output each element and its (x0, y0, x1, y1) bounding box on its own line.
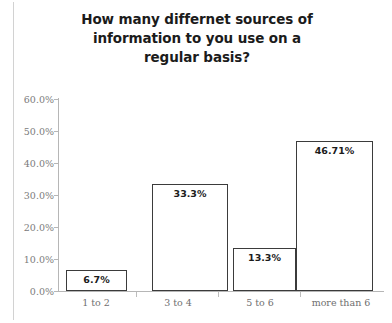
y-tick-label-0: 0.0% (14, 286, 54, 297)
x-tick-mark-1 (136, 292, 137, 297)
x-label-more-than-6: more than 6 (296, 297, 386, 308)
bar-5-to-6[interactable]: 13.3% (233, 248, 296, 291)
y-axis-line (58, 98, 59, 292)
y-tick-label-10: 10.0% (14, 254, 54, 265)
y-tick-label-60: 60.0% (14, 94, 54, 105)
chart-title-line-2: information to you use on a (22, 29, 372, 48)
x-label-5-to-6: 5 to 6 (220, 297, 300, 308)
y-tick-label-20: 20.0% (14, 222, 54, 233)
bar-3-to-4[interactable]: 33.3% (152, 184, 228, 291)
y-tick-mark-60 (54, 99, 58, 100)
x-label-1-to-2: 1 to 2 (56, 297, 136, 308)
chart-container: How many differnet sources of informatio… (0, 0, 392, 323)
y-tick-label-40: 40.0% (14, 158, 54, 169)
chart-title-line-1: How many differnet sources of (22, 10, 372, 29)
bar-value-label-1-to-2: 6.7% (67, 274, 126, 285)
y-tick-label-50: 50.0% (14, 126, 54, 137)
y-tick-label-30: 30.0% (14, 190, 54, 201)
bar-value-label-3-to-4: 33.3% (153, 188, 227, 199)
y-tick-mark-0 (54, 291, 58, 292)
y-tick-mark-30 (54, 195, 58, 196)
x-label-3-to-4: 3 to 4 (138, 297, 218, 308)
y-tick-mark-40 (54, 163, 58, 164)
y-tick-mark-10 (54, 259, 58, 260)
chart-title: How many differnet sources of informatio… (22, 10, 372, 67)
bar-1-to-2[interactable]: 6.7% (66, 270, 127, 291)
chart-title-line-3: regular basis? (22, 48, 372, 67)
bar-value-label-more-than-6: 46.71% (297, 145, 372, 156)
y-tick-mark-50 (54, 131, 58, 132)
x-tick-mark-2 (218, 292, 219, 297)
y-tick-mark-20 (54, 227, 58, 228)
bar-value-label-5-to-6: 13.3% (234, 252, 295, 263)
bar-more-than-6[interactable]: 46.71% (296, 141, 373, 291)
x-axis-line (58, 291, 384, 292)
